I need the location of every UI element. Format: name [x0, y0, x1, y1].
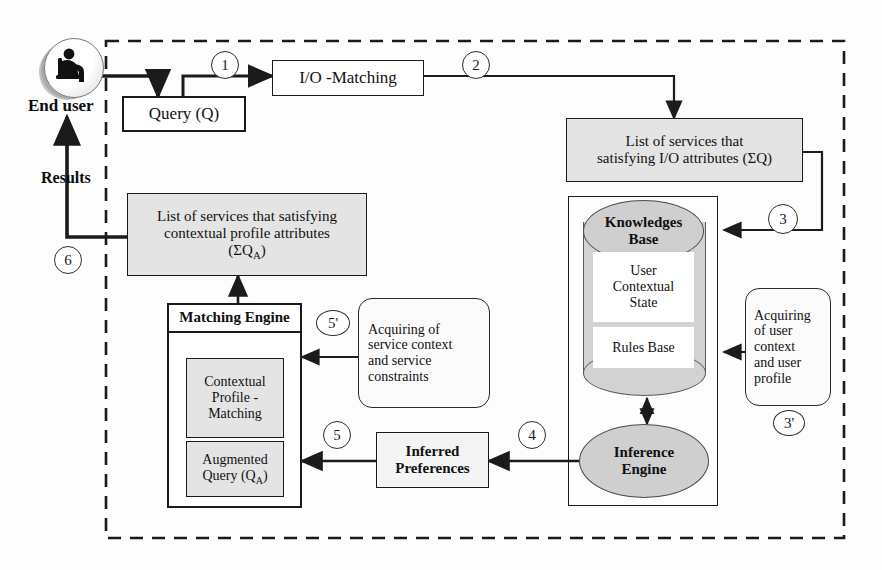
- node-inference-engine[interactable]: Inference Engine: [579, 424, 709, 498]
- acquiring-user-line5: profile: [754, 371, 791, 387]
- flow-number-5-prime-label: 5': [328, 315, 338, 332]
- node-knowledges-base-cylinder[interactable]: Knowledges Base User Contextual State Ru…: [583, 200, 704, 394]
- arrow-io-matching-to-list-io: [424, 76, 674, 118]
- contextual-profile-matching-line2: Profile -: [212, 390, 258, 406]
- user-contextual-state-line1: User: [630, 263, 656, 279]
- flow-number-2: 2: [462, 51, 490, 79]
- contextual-profile-matching-line1: Contextual: [204, 374, 265, 390]
- flow-number-3-label: 3: [779, 211, 787, 228]
- node-acquiring-user-context[interactable]: Acquiring of user context and user profi…: [745, 288, 831, 406]
- matching-engine-title: Matching Engine: [169, 305, 300, 333]
- rules-base-label: Rules Base: [612, 340, 675, 356]
- flow-number-1: 1: [211, 51, 239, 79]
- node-query[interactable]: Query (Q): [122, 96, 246, 132]
- node-rules-base[interactable]: Rules Base: [593, 326, 694, 368]
- knowledges-base-line2: Base: [629, 231, 659, 248]
- node-list-ctx-line1: List of services that satisfying: [157, 208, 337, 225]
- augmented-query-line2: Query (QA): [202, 468, 267, 486]
- node-contextual-profile-matching[interactable]: Contextual Profile - Matching: [186, 358, 284, 438]
- node-acquiring-service-context[interactable]: Acquiring of service context and service…: [358, 298, 490, 408]
- flow-number-5-prime: 5': [316, 310, 350, 336]
- acquiring-user-line1: Acquiring: [754, 308, 811, 324]
- inference-engine-line2: Engine: [621, 461, 666, 478]
- node-list-ctx-line3: (ΣQA): [228, 242, 265, 261]
- acquiring-service-line2: service context: [368, 337, 452, 353]
- node-query-label: Query (Q): [149, 104, 219, 123]
- acquiring-user-line3: context: [754, 339, 795, 355]
- contextual-profile-matching-line3: Matching: [208, 406, 262, 422]
- inference-engine-line1: Inference: [614, 444, 675, 461]
- flow-number-5-label: 5: [333, 427, 341, 444]
- flow-number-5: 5: [323, 421, 351, 449]
- inferred-preferences-line2: Preferences: [395, 460, 469, 477]
- end-user-label: End user: [28, 96, 94, 116]
- user-at-computer-icon: [45, 39, 103, 97]
- user-contextual-state-line2: Contextual: [613, 279, 674, 295]
- results-label: Results: [41, 169, 91, 187]
- flow-number-2-label: 2: [472, 57, 480, 74]
- sigma-qa-prefix: (ΣQ: [228, 242, 253, 258]
- node-io-matching[interactable]: I/O -Matching: [272, 60, 424, 96]
- sigma-qa-suffix: ): [261, 242, 266, 258]
- augmented-query-suffix: ): [263, 468, 268, 483]
- flow-number-3-prime: 3': [773, 410, 805, 436]
- arrow-user-to-query: [101, 76, 158, 96]
- acquiring-service-line1: Acquiring of: [368, 322, 440, 338]
- node-list-io-line1: List of services that: [626, 133, 744, 150]
- flow-number-4: 4: [518, 421, 546, 449]
- flow-number-3-prime-label: 3': [784, 415, 794, 432]
- sigma-qa-subscript: A: [253, 249, 261, 261]
- node-augmented-query[interactable]: Augmented Query (QA): [186, 441, 284, 497]
- flow-number-6: 6: [54, 246, 82, 274]
- end-user-avatar: [44, 38, 104, 98]
- node-list-io-line2: satisfying I/O attributes (ΣQ): [597, 150, 772, 167]
- user-contextual-state-line3: State: [630, 295, 658, 311]
- inferred-preferences-line1: Inferred: [406, 443, 460, 460]
- arrow-query-to-io-matching: [183, 76, 272, 96]
- flow-number-1-label: 1: [221, 57, 229, 74]
- node-list-ctx-line2: contextual profile attributes: [164, 225, 330, 242]
- node-list-contextual-attributes[interactable]: List of services that satisfying context…: [127, 193, 367, 276]
- acquiring-user-line4: and user: [754, 355, 801, 371]
- augmented-query-subscript: A: [256, 475, 263, 486]
- node-inferred-preferences[interactable]: Inferred Preferences: [376, 432, 489, 488]
- acquiring-user-line2: of user: [754, 323, 793, 339]
- augmented-query-prefix: Query (Q: [202, 468, 255, 483]
- node-user-contextual-state[interactable]: User Contextual State: [593, 252, 694, 322]
- architecture-diagram: End user Results Query (Q) I/O -Matching…: [0, 0, 882, 570]
- flow-number-6-label: 6: [64, 252, 72, 269]
- flow-number-3: 3: [768, 204, 798, 234]
- augmented-query-line1: Augmented: [202, 452, 267, 468]
- acquiring-service-line3: and service: [368, 353, 431, 369]
- node-io-matching-label: I/O -Matching: [299, 68, 397, 87]
- node-list-io-attributes[interactable]: List of services that satisfying I/O att…: [566, 118, 803, 182]
- knowledges-base-line1: Knowledges: [605, 214, 683, 231]
- acquiring-service-line4: constraints: [368, 369, 429, 385]
- flow-number-4-label: 4: [528, 427, 536, 444]
